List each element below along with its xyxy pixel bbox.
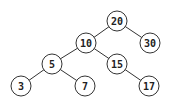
node-7: 7 [75, 76, 95, 96]
node-30: 30 [140, 33, 160, 53]
node-17: 17 [139, 76, 159, 96]
node-10: 10 [76, 33, 96, 53]
svg-text:3: 3 [18, 81, 24, 92]
node-15: 15 [107, 54, 127, 74]
svg-text:17: 17 [143, 81, 155, 92]
tree-diagram: 20 10 30 5 15 3 7 17 [0, 0, 171, 103]
node-5: 5 [42, 54, 62, 74]
svg-text:15: 15 [111, 59, 123, 70]
svg-text:10: 10 [80, 38, 92, 49]
svg-text:7: 7 [82, 81, 88, 92]
svg-text:5: 5 [49, 59, 55, 70]
node-20: 20 [107, 11, 127, 31]
node-3: 3 [11, 76, 31, 96]
svg-text:20: 20 [111, 16, 123, 27]
svg-text:30: 30 [144, 38, 156, 49]
